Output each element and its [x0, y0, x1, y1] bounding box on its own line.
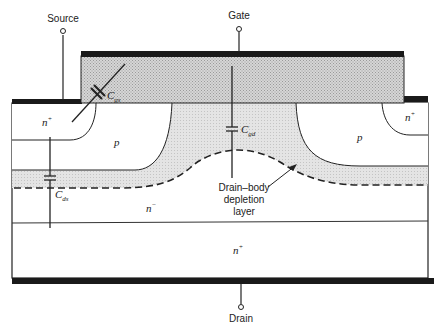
source-label: Source: [47, 13, 79, 24]
svg-text:Drain–body: Drain–body: [218, 182, 269, 193]
drain-terminal[interactable]: [239, 305, 244, 310]
source-metal-right: [404, 96, 428, 102]
gate-metal: [81, 51, 404, 57]
svg-text:depletion: depletion: [224, 194, 265, 205]
p-region-left: [12, 103, 172, 170]
source-metal: [12, 99, 82, 104]
p-right-label: p: [356, 131, 363, 143]
mosfet-diagram: Source Gate Drain Cgs Cgd Cds n+ n+ p p …: [0, 0, 441, 327]
gate-electrode: [81, 56, 404, 103]
source-terminal[interactable]: [61, 29, 66, 34]
gate-label: Gate: [228, 10, 250, 21]
svg-text:layer: layer: [233, 206, 255, 217]
p-left-label: p: [113, 136, 120, 148]
drain-metal: [12, 278, 434, 284]
gate-terminal[interactable]: [237, 27, 242, 32]
drain-label: Drain: [229, 313, 253, 324]
